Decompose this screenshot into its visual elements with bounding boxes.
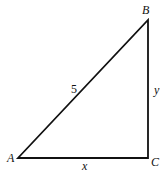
triangle-shape <box>18 20 148 158</box>
side-label-horizontal: x <box>81 159 88 173</box>
side-label-hypotenuse: 5 <box>71 82 77 96</box>
vertex-label-b: B <box>142 3 150 17</box>
vertex-label-c: C <box>151 155 160 169</box>
side-label-vertical: y <box>153 83 160 97</box>
triangle-diagram: A B C 5 y x <box>0 0 161 173</box>
vertex-label-a: A <box>6 151 15 165</box>
